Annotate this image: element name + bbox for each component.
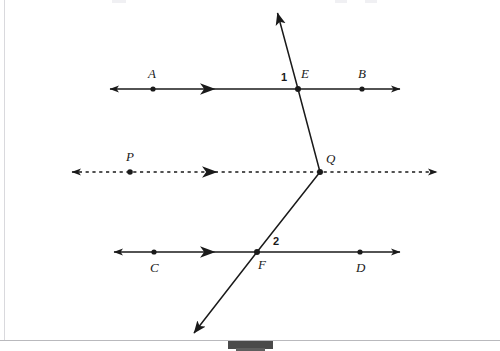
diagram-canvas: A B E 1 P Q C D F 2 [0, 0, 500, 351]
label-point-Q: Q [326, 152, 335, 165]
point-B-dot [359, 86, 364, 91]
label-point-A: A [148, 67, 156, 80]
line-PQ-group [72, 166, 437, 178]
label-angle-2: 2 [273, 236, 279, 247]
label-point-D: D [356, 261, 365, 274]
point-P-dot [127, 169, 133, 175]
transversal-upper [278, 13, 321, 172]
label-point-F: F [258, 258, 266, 271]
label-point-C: C [150, 261, 159, 274]
point-A-dot [150, 86, 155, 91]
line-AB-group [110, 83, 400, 95]
point-C-dot [151, 249, 156, 254]
label-angle-1: 1 [281, 72, 287, 83]
point-D-dot [357, 249, 362, 254]
geometry-figure [0, 0, 500, 351]
label-point-E: E [301, 67, 309, 80]
label-point-B: B [358, 67, 366, 80]
label-point-P: P [126, 150, 134, 163]
